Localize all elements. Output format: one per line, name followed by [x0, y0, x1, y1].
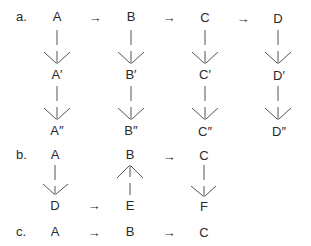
row-b-split-b-e — [117, 165, 143, 195]
arrow-b-bottom: → — [88, 199, 101, 213]
node-b-D: D — [50, 199, 59, 213]
node-a-C: C — [200, 11, 209, 25]
node-a-D-double-prime: D″ — [272, 125, 286, 139]
arrow-c-1: → — [88, 226, 101, 240]
row-b-merge-c-f — [191, 165, 216, 197]
node-a-C-double-prime: C″ — [198, 125, 212, 139]
node-a-B: B — [127, 10, 136, 24]
row-a-merge-2 — [44, 86, 291, 120]
node-a-A: A — [53, 10, 62, 24]
arrow-c-2: → — [163, 226, 176, 240]
node-b-B: B — [126, 148, 135, 162]
node-a-A-prime: A′ — [51, 68, 62, 82]
node-c-B: B — [126, 225, 135, 239]
row-b-merge-a-d — [43, 165, 68, 195]
node-b-E: E — [126, 199, 135, 213]
node-b-F: F — [200, 200, 208, 214]
row-label-b: b. — [16, 148, 27, 162]
arrow-a-2: → — [163, 11, 176, 25]
arrow-a-1: → — [89, 11, 102, 25]
node-a-B-double-prime: B″ — [124, 124, 137, 138]
node-b-C: C — [199, 149, 208, 163]
arrow-b-top: → — [163, 150, 176, 164]
node-a-B-prime: B′ — [125, 68, 136, 82]
node-a-A-double-prime: A″ — [50, 124, 63, 138]
node-a-D-prime: D′ — [273, 69, 285, 83]
connector-lines — [0, 0, 311, 246]
node-a-D: D — [273, 12, 282, 26]
arrow-a-3: → — [237, 12, 250, 26]
node-c-A: A — [51, 225, 60, 239]
row-label-a: a. — [16, 10, 27, 24]
node-b-A: A — [51, 148, 60, 162]
node-c-C: C — [199, 226, 208, 240]
node-a-C-prime: C′ — [199, 68, 211, 82]
row-label-c: c. — [16, 225, 26, 239]
row-a-merge-1 — [44, 30, 291, 64]
